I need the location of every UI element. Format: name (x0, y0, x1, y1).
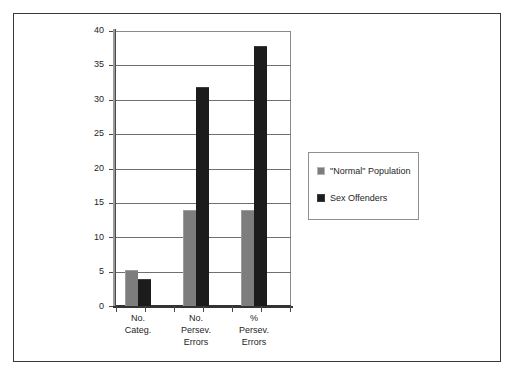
y-tick-label: 20 (82, 164, 104, 173)
black-swatch-icon (317, 194, 325, 202)
y-tick-label: 30 (82, 95, 104, 104)
y-tick-label: 5 (82, 267, 104, 276)
y-tick-label: 0 (82, 302, 104, 311)
y-tick-label: 35 (82, 60, 104, 69)
x-category-label-percent-persev-errors: % Persev. Errors (219, 312, 289, 348)
x-category-line: Errors (219, 336, 289, 348)
y-tick-label: 40 (82, 26, 104, 35)
bar-normal-population (125, 270, 138, 306)
legend-label: "Normal" Population (330, 166, 410, 176)
legend-item-normal-population: "Normal" Population (317, 166, 410, 176)
bar-normal-population (241, 210, 254, 306)
x-category-line: % (219, 312, 289, 324)
y-tick-label: 25 (82, 129, 104, 138)
y-tick-label: 10 (82, 233, 104, 242)
bar-sex-offenders (254, 46, 267, 306)
chart-figure: 40 35 30 25 20 15 10 5 0 (0, 0, 515, 374)
bar-group (232, 31, 290, 306)
x-axis-tick (290, 306, 291, 312)
y-tick-label: 15 (82, 198, 104, 207)
legend-item-sex-offenders: Sex Offenders (317, 193, 387, 203)
gray-swatch-icon (317, 167, 325, 175)
bar-normal-population (183, 210, 196, 306)
chart-legend: "Normal" Population Sex Offenders (308, 152, 419, 220)
bar-group (116, 31, 174, 306)
x-category-line: Persev. (219, 324, 289, 336)
y-axis-tick-labels: 40 35 30 25 20 15 10 5 0 (82, 0, 104, 374)
bar-sex-offenders (138, 279, 151, 307)
bar-group (174, 31, 232, 306)
legend-label: Sex Offenders (330, 193, 387, 203)
plot-area (116, 31, 291, 306)
bar-sex-offenders (196, 87, 209, 306)
